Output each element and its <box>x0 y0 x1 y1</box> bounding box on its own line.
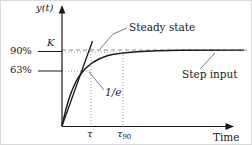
tick-label-tau: τ <box>87 129 93 139</box>
tick-label-tau90: τ90 <box>117 129 131 141</box>
annotation-one-over-e: 1/e <box>105 87 121 98</box>
x-axis-label: Time <box>213 132 240 143</box>
y-axis-arrowhead <box>59 5 66 14</box>
tick-label-63-percent: 63% <box>10 65 32 75</box>
tick-label-90-percent: 90% <box>10 46 32 56</box>
x-axis-arrowhead <box>226 123 235 130</box>
initial-slope-tangent <box>62 41 93 126</box>
step-response-curve <box>62 50 244 126</box>
tick-label-tau90-subscript: 90 <box>123 133 131 141</box>
step-response-figure: y(t) K 90% 63% τ τ90 Steady state Step i… <box>0 0 252 145</box>
steady-state-leader-line <box>100 28 127 49</box>
step-input-leader-line <box>200 53 215 69</box>
y-axis-label: y(t) <box>36 3 53 13</box>
annotation-steady-state: Steady state <box>129 22 195 33</box>
annotation-step-input: Step input <box>182 69 238 80</box>
steady-state-value-label: K <box>47 38 54 48</box>
